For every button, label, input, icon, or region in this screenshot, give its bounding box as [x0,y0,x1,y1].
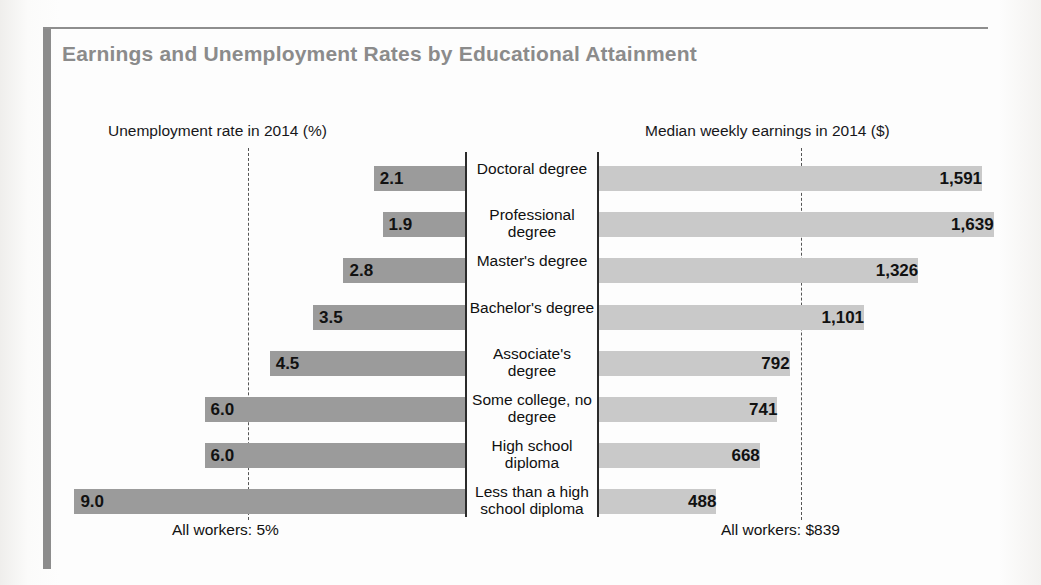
category-label: Less than a high school diploma [467,483,597,517]
unemployment-value-label: 9.0 [74,489,104,514]
unemployment-bar [74,489,465,514]
chart-row: 6.0668High school diploma [0,433,1041,479]
earnings-value-label: 741 [599,397,784,422]
chart-row: 3.51,101Bachelor's degree [0,295,1041,341]
earnings-value-label: 1,326 [599,258,925,283]
category-label: Bachelor's degree [467,299,597,316]
category-label: Master's degree [467,252,597,269]
unemployment-value-label: 2.8 [343,258,373,283]
unemployment-value-label: 6.0 [205,443,235,468]
earnings-value-label: 1,639 [599,212,1001,237]
chart-row: 2.11,591Doctoral degree [0,156,1041,202]
chart-row: 2.81,326Master's degree [0,248,1041,294]
left-footnote: All workers: 5% [172,521,279,539]
earnings-value-label: 488 [599,489,723,514]
chart-row: 1.91,639Professional degree [0,202,1041,248]
unemployment-bar [205,443,465,468]
category-label: Some college, no degree [467,391,597,425]
category-label: High school diploma [467,437,597,471]
earnings-value-label: 668 [599,443,767,468]
unemployment-value-label: 4.5 [270,351,300,376]
unemployment-bar [205,397,465,422]
unemployment-value-label: 3.5 [313,305,343,330]
unemployment-value-label: 1.9 [383,212,413,237]
diverging-bar-chart: 2.11,591Doctoral degree1.91,639Professio… [0,0,1041,585]
earnings-value-label: 792 [599,351,797,376]
right-footnote: All workers: $839 [721,521,840,539]
chart-row: 9.0488Less than a high school diploma [0,479,1041,525]
chart-row: 4.5792Associate's degree [0,341,1041,387]
earnings-value-label: 1,101 [599,305,871,330]
category-label: Associate's degree [467,345,597,379]
chart-row: 6.0741Some college, no degree [0,387,1041,433]
unemployment-value-label: 6.0 [205,397,235,422]
category-label: Professional degree [467,206,597,240]
unemployment-value-label: 2.1 [374,166,404,191]
earnings-value-label: 1,591 [599,166,989,191]
category-label: Doctoral degree [467,160,597,177]
